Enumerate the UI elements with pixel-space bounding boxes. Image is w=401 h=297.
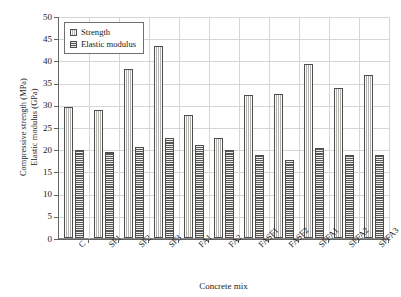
bar-fasf2-elastic-modulus	[285, 160, 295, 238]
legend-swatch-strength-icon	[70, 29, 77, 36]
y-tick-mark	[54, 106, 58, 107]
y-tick-mark	[54, 84, 58, 85]
bar-sf2-strength	[124, 69, 134, 238]
bar-fasf2-strength	[274, 94, 284, 238]
bar-fa2-strength	[214, 138, 224, 238]
bar-sf1-elastic-modulus	[105, 152, 115, 238]
chart-figure: Compressive strength (MPa) Elastic modul…	[0, 0, 401, 297]
y-tick-label: 0	[22, 235, 52, 244]
x-tick-label: SF1	[107, 243, 113, 249]
x-axis-title: Concrete mix	[58, 281, 389, 291]
x-tick-label: SFFA3	[377, 243, 383, 249]
gridline-vertical	[269, 17, 270, 239]
bar-fa1-strength	[184, 115, 194, 238]
bar-sffa1-elastic-modulus	[315, 148, 325, 238]
y-tick-label: 15	[22, 168, 52, 177]
y-tick-label: 45	[22, 35, 52, 44]
gridline-horizontal	[59, 84, 389, 85]
gridline-horizontal	[59, 17, 389, 18]
y-tick-mark	[54, 239, 58, 240]
legend-swatch-modulus-icon	[70, 41, 77, 48]
y-tick-label: 20	[22, 146, 52, 155]
x-tick-mark	[88, 239, 89, 243]
x-tick-label: C	[77, 243, 83, 249]
y-tick-label: 10	[22, 190, 52, 199]
y-tick-mark	[54, 217, 58, 218]
y-tick-mark	[54, 128, 58, 129]
y-tick-mark	[54, 39, 58, 40]
bar-fasf1-strength	[244, 95, 254, 238]
bar-fasf1-elastic-modulus	[255, 155, 265, 238]
gridline-vertical	[389, 17, 390, 239]
y-tick-mark	[54, 172, 58, 173]
y-tick-label: 5	[22, 212, 52, 221]
x-tick-label: FASF2	[287, 243, 293, 249]
bar-c-strength	[64, 107, 74, 238]
bar-sf3-elastic-modulus	[165, 138, 175, 238]
x-tick-label: SF3	[167, 243, 173, 249]
gridline-vertical	[209, 17, 210, 239]
y-tick-label: 30	[22, 101, 52, 110]
gridline-vertical	[179, 17, 180, 239]
gridline-horizontal	[59, 61, 389, 62]
bar-sffa2-elastic-modulus	[345, 155, 355, 238]
bar-sf1-strength	[94, 110, 104, 238]
gridline-vertical	[359, 17, 360, 239]
bar-fa1-elastic-modulus	[195, 145, 205, 238]
bar-sf3-strength	[154, 46, 164, 238]
x-tick-label: SFFA2	[347, 243, 353, 249]
legend-label-elastic-modulus: Elastic modulus	[81, 39, 136, 49]
y-tick-label: 50	[22, 13, 52, 22]
gridline-vertical	[299, 17, 300, 239]
legend-item-strength: Strength	[70, 26, 136, 38]
y-tick-mark	[54, 17, 58, 18]
chart-legend: Strength Elastic modulus	[64, 22, 144, 54]
x-tick-label: FA2	[227, 243, 233, 249]
x-tick-label: SF2	[137, 243, 143, 249]
y-tick-mark	[54, 150, 58, 151]
y-axis-line	[58, 17, 59, 240]
legend-label-strength: Strength	[81, 27, 110, 37]
gridline-vertical	[149, 17, 150, 239]
bar-sffa2-strength	[334, 88, 344, 238]
y-tick-label: 40	[22, 57, 52, 66]
x-tick-label: FASF1	[257, 243, 263, 249]
bar-fa2-elastic-modulus	[225, 150, 235, 238]
gridline-vertical	[329, 17, 330, 239]
bar-sffa3-elastic-modulus	[375, 155, 385, 238]
x-tick-label: SFFA1	[317, 243, 323, 249]
y-tick-label: 25	[22, 124, 52, 133]
x-tick-label: FA1	[197, 243, 203, 249]
bar-sffa1-strength	[304, 64, 314, 238]
y-tick-mark	[54, 61, 58, 62]
bar-sf2-elastic-modulus	[135, 147, 145, 238]
y-tick-mark	[54, 195, 58, 196]
y-tick-label: 35	[22, 79, 52, 88]
bar-sffa3-strength	[364, 75, 374, 238]
bar-c-elastic-modulus	[75, 150, 85, 238]
legend-item-elastic-modulus: Elastic modulus	[70, 38, 136, 50]
gridline-vertical	[239, 17, 240, 239]
